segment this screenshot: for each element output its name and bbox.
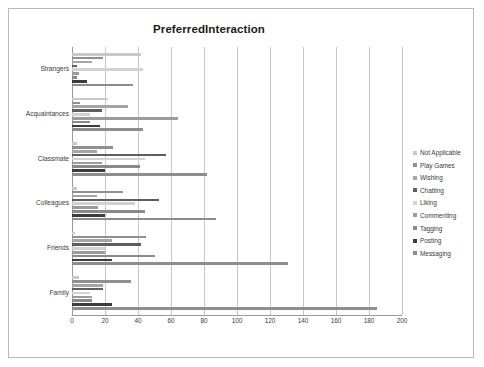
bar <box>72 150 97 153</box>
legend-item[interactable]: Play Games <box>413 162 484 169</box>
bar <box>72 247 105 250</box>
x-axis-tick-label: 100 <box>232 317 243 324</box>
legend-swatch-icon <box>413 188 417 192</box>
bar <box>72 195 97 198</box>
bar-group <box>72 181 402 226</box>
bar <box>72 243 141 246</box>
bar <box>72 142 77 145</box>
bar <box>72 61 92 64</box>
category-axis-label: Strangers <box>40 65 69 72</box>
bar <box>72 199 159 202</box>
bar <box>72 187 77 190</box>
legend-swatch-icon <box>413 163 417 167</box>
legend-item-label: Posting <box>420 237 441 244</box>
bar <box>72 68 143 71</box>
bar-group <box>72 270 402 315</box>
category-axis-label: Acquaintances <box>26 110 69 117</box>
bar <box>72 251 105 254</box>
legend-item-label: Play Games <box>420 162 455 169</box>
x-axis-tick-label: 200 <box>397 317 408 324</box>
legend-item[interactable]: Posting <box>413 237 484 244</box>
bar <box>72 109 102 112</box>
bar-group <box>72 47 402 92</box>
bar <box>72 296 92 299</box>
legend-swatch-icon <box>413 251 417 255</box>
bar <box>72 173 207 176</box>
legend-item[interactable]: Wishing <box>413 174 484 181</box>
bar <box>72 53 141 56</box>
bar <box>72 292 90 295</box>
bar <box>72 113 90 116</box>
x-axis-tick-label: 20 <box>101 317 108 324</box>
legend-item[interactable]: Chatting <box>413 187 484 194</box>
bar <box>72 262 288 265</box>
chart-legend: Not ApplicablePlay GamesWishingChattingL… <box>413 149 484 262</box>
bar <box>72 299 92 302</box>
bar <box>72 128 143 131</box>
bar <box>72 98 108 101</box>
x-axis-tick-label: 40 <box>134 317 141 324</box>
legend-swatch-icon <box>413 201 417 205</box>
bar <box>72 236 146 239</box>
bar <box>72 191 123 194</box>
category-axis-label: Family <box>50 289 69 296</box>
bar <box>72 280 131 283</box>
bar <box>72 255 155 258</box>
bar <box>72 202 135 205</box>
legend-item-label: Tagging <box>420 225 442 232</box>
bar <box>72 162 102 165</box>
bar-group <box>72 92 402 137</box>
x-axis-tick-label: 120 <box>265 317 276 324</box>
legend-item-label: Commenting <box>420 212 456 219</box>
legend-item[interactable]: Liking <box>413 199 484 206</box>
bar <box>72 125 100 128</box>
legend-item-label: Wishing <box>420 174 443 181</box>
category-axis-labels: StrangersAcquaintancesClassmateColleague… <box>9 47 69 315</box>
bar <box>72 117 178 120</box>
bar <box>72 206 98 209</box>
bar <box>72 307 377 310</box>
legend-item[interactable]: Messaging <box>413 250 484 257</box>
chart-frame: PreferredInteraction StrangersAcquaintan… <box>8 8 474 358</box>
gridline <box>402 47 403 315</box>
bar <box>72 284 103 287</box>
legend-item-label: Not Applicable <box>420 149 461 156</box>
bar <box>72 72 79 75</box>
plot-inner: 020406080100120140160180200 <box>72 47 402 315</box>
x-axis-tick-label: 140 <box>298 317 309 324</box>
category-axis-label: Friends <box>47 244 69 251</box>
bar-group <box>72 226 402 271</box>
bar <box>72 154 166 157</box>
bar <box>72 57 103 60</box>
bar <box>72 80 87 83</box>
legend-item[interactable]: Tagging <box>413 225 484 232</box>
bar <box>72 84 133 87</box>
x-axis-tick-label: 160 <box>331 317 342 324</box>
bar <box>72 259 112 262</box>
legend-swatch-icon <box>413 213 417 217</box>
bar <box>72 158 145 161</box>
legend-item-label: Chatting <box>420 187 444 194</box>
bar <box>72 214 105 217</box>
x-axis-tick-label: 80 <box>200 317 207 324</box>
legend-item[interactable]: Commenting <box>413 212 484 219</box>
chart-title: PreferredInteraction <box>9 23 409 35</box>
legend-swatch-icon <box>413 239 417 243</box>
x-axis-tick-label: 0 <box>70 317 74 324</box>
bar <box>72 210 145 213</box>
legend-item-label: Messaging <box>420 250 451 257</box>
x-axis-tick-label: 60 <box>167 317 174 324</box>
bar <box>72 102 80 105</box>
bar <box>72 105 128 108</box>
bar-group <box>72 136 402 181</box>
bar <box>72 121 90 124</box>
bar <box>72 169 105 172</box>
legend-swatch-icon <box>413 176 417 180</box>
bar <box>72 276 79 279</box>
bar <box>72 239 112 242</box>
bar <box>72 76 77 79</box>
category-axis-line <box>72 315 402 316</box>
bar <box>72 303 112 306</box>
legend-item[interactable]: Not Applicable <box>413 149 484 156</box>
bar <box>72 288 103 291</box>
